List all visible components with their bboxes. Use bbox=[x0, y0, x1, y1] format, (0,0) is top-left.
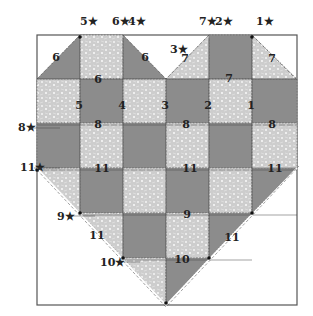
patch-dark bbox=[123, 213, 166, 258]
start-label: 2★ bbox=[215, 15, 233, 28]
start-dot bbox=[164, 301, 168, 305]
start-label: 11★ bbox=[20, 161, 45, 174]
seam-label: 11 bbox=[94, 162, 109, 175]
seam-label: 8 bbox=[182, 118, 190, 131]
patch-dark bbox=[123, 123, 166, 168]
start-label: 9★ bbox=[57, 210, 75, 223]
patch-dark bbox=[252, 79, 297, 123]
seam-label: 11 bbox=[89, 229, 104, 242]
seam-label: 9 bbox=[183, 208, 191, 221]
seam-label: 4 bbox=[118, 99, 126, 112]
seam-label: 7 bbox=[225, 72, 233, 85]
patch-dark bbox=[209, 123, 252, 168]
start-dot bbox=[78, 35, 82, 39]
start-label: 4★ bbox=[128, 15, 146, 28]
seam-label: 11 bbox=[182, 162, 197, 175]
seam-label: 6 bbox=[52, 51, 60, 64]
start-label: 8★ bbox=[18, 121, 36, 134]
start-dot bbox=[207, 256, 211, 260]
start-label: 1★ bbox=[256, 15, 274, 28]
patch-dark bbox=[166, 79, 209, 123]
seam-label: 1 bbox=[247, 99, 255, 112]
patch-light bbox=[209, 168, 252, 213]
seam-label: 6 bbox=[141, 51, 149, 64]
seam-label: 6 bbox=[94, 73, 102, 86]
patch-light bbox=[209, 79, 252, 123]
seam-label: 5 bbox=[75, 99, 83, 112]
seam-label: 10 bbox=[174, 253, 190, 266]
seam-label: 8 bbox=[268, 118, 276, 131]
patch-light bbox=[123, 79, 166, 123]
patch-light bbox=[123, 168, 166, 213]
start-label: 6★ bbox=[112, 15, 130, 28]
start-label: 7★ bbox=[199, 15, 217, 28]
start-dot bbox=[78, 211, 82, 215]
heart-quilt-diagram: 5★6★4★3★7★2★1★8★11★9★10★6667775432188811… bbox=[0, 0, 313, 316]
start-label: 5★ bbox=[80, 15, 98, 28]
seam-label: 2 bbox=[204, 99, 212, 112]
seam-label: 11 bbox=[267, 162, 282, 175]
start-dot bbox=[250, 35, 254, 39]
start-dot bbox=[250, 211, 254, 215]
seam-label: 3 bbox=[161, 99, 169, 112]
seam-label: 7 bbox=[181, 52, 189, 65]
seam-label: 8 bbox=[94, 118, 102, 131]
patch-light bbox=[37, 79, 80, 123]
start-label: 10★ bbox=[100, 256, 125, 269]
seam-label: 11 bbox=[224, 231, 239, 244]
seam-label: 7 bbox=[268, 52, 276, 65]
